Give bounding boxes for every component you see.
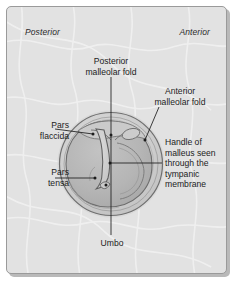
figure-root: Posterior Anterior Posterior malleolar f… [0,0,235,283]
label-anterior-malleolar-fold: Anterior malleolar fold [137,86,223,107]
orientation-label-posterior: Posterior [25,27,60,37]
orientation-label-anterior: Anterior [179,27,210,37]
label-posterior-malleolar-fold: Posterior malleolar fold [63,56,159,77]
label-umbo: Umbo [89,238,135,249]
figure-panel: Posterior Anterior Posterior malleolar f… [6,6,227,274]
label-pars-flaccida: Pars flaccida [17,120,69,141]
label-pars-tensa: Pars tensa [17,167,69,188]
label-handle-of-malleus: Handle of malleus seen through the tympa… [165,137,225,190]
